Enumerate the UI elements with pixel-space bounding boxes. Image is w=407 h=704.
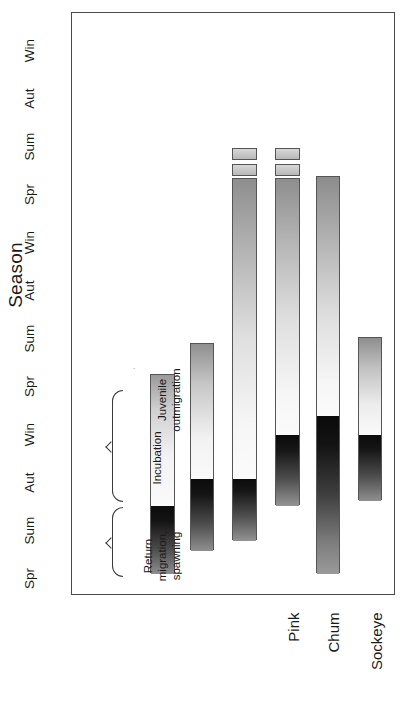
bar-sockeye-spawning-segment (233, 479, 256, 541)
incubation-brace (112, 390, 123, 502)
bar-coho-ocean-box-second (275, 164, 300, 176)
bar-chinook-o (358, 337, 382, 500)
bar-chinook-s-spawning-segment (317, 416, 339, 574)
bar-coho-spawning-segment (276, 435, 299, 506)
bar-chum (190, 343, 214, 550)
species-label-pink: Pink (285, 613, 302, 704)
juvenile-outmigration-arrow (118, 368, 150, 369)
bar-sockeye-incubation-segment (233, 179, 256, 479)
annotation-juvenile-line2: outmigration (170, 352, 183, 448)
species-label-chum: Chum (325, 613, 342, 704)
bar-chum-incubation-segment (191, 344, 213, 479)
annotation-return-line3: spawning (170, 508, 183, 604)
bar-coho (275, 178, 300, 505)
return-migration-brace (112, 507, 123, 577)
bar-chinook-s-incubation-segment (317, 177, 339, 416)
tick-label-win-3: Win (22, 22, 37, 80)
bar-chinook-o-spawning-segment (359, 435, 381, 501)
bar-chinook-o-incubation-segment (359, 338, 381, 435)
annotation-return-line1: Return (142, 508, 155, 604)
annotation-incubation: Incubation (151, 410, 164, 506)
bar-sockeye (232, 178, 257, 540)
bar-sockeye-ocean-box-top (232, 148, 257, 160)
bar-chum-spawning-segment (191, 479, 213, 551)
annotation-return-line2: migration, (156, 508, 169, 604)
bar-coho-ocean-box-top (275, 148, 300, 160)
bar-coho-incubation-segment (276, 179, 299, 435)
bar-sockeye-ocean-box-second (232, 164, 257, 176)
species-label-sockeye: Sockeye (368, 613, 385, 704)
bar-chinook-s (316, 176, 340, 573)
